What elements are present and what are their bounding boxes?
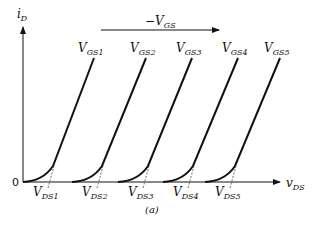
- vgs-label-2: VGS2: [130, 42, 156, 57]
- iv-curve-3: [118, 58, 192, 182]
- iv-curve-2: [72, 58, 146, 182]
- origin-label: 0: [12, 177, 19, 188]
- figure-caption: (a): [145, 205, 159, 215]
- iv-curve-5: [205, 58, 280, 182]
- iv-curve-4: [163, 58, 238, 182]
- vds-label-2: VDS2: [82, 186, 108, 201]
- vgs-label-5: VGS5: [264, 42, 290, 57]
- x-axis-label: vDS: [286, 177, 305, 192]
- vgs-label-3: VGS3: [176, 42, 202, 57]
- vds-label-4: VDS4: [173, 186, 199, 201]
- vgs-label-1: VGS1: [78, 42, 104, 57]
- curve-group: [23, 58, 280, 188]
- y-axis-label: iD: [17, 8, 27, 23]
- vds-label-1: VDS1: [33, 186, 59, 201]
- iv-curve-1: [23, 58, 94, 182]
- vds-label-3: VDS3: [128, 186, 154, 201]
- vgs-label-4: VGS4: [222, 42, 248, 57]
- vds-label-5: VDS5: [215, 186, 241, 201]
- direction-arrow-label: −VGS: [145, 15, 176, 30]
